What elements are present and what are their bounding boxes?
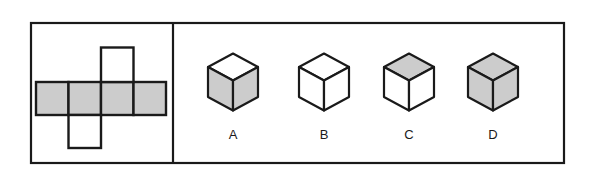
cube-option-label-b: B (320, 127, 329, 142)
net-square-row-1 (36, 82, 69, 115)
net-square-bottom-flap (69, 115, 102, 148)
cube-option-label-d: D (488, 127, 497, 142)
cube-net-figure: ABCD (0, 0, 592, 182)
net-square-top-flap (101, 48, 134, 83)
cube-option-label-c: C (404, 127, 413, 142)
net-square-row-2 (69, 82, 102, 115)
cube-option-label-a: A (229, 127, 238, 142)
net-square-row-3 (101, 82, 134, 115)
net-square-row-4 (134, 82, 167, 115)
figure-root: ABCD (0, 0, 592, 182)
